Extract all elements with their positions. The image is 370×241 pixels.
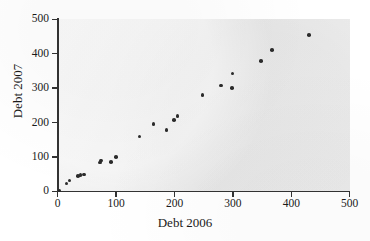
y-tick-mark (52, 122, 58, 123)
scatter-point (114, 155, 118, 159)
panel-texture (58, 19, 350, 191)
scatter-point (99, 159, 103, 163)
scatter-point (219, 84, 223, 88)
x-axis-line (57, 191, 350, 193)
scatter-point (172, 118, 176, 122)
y-tick-mark (52, 87, 58, 88)
scatter-point (270, 48, 274, 52)
x-axis-title: Debt 2006 (0, 216, 370, 230)
y-axis-title: Debt 2007 (11, 21, 25, 161)
scatter-point (176, 114, 180, 118)
scatter-point (82, 173, 86, 177)
y-tick-mark (52, 53, 58, 54)
x-tick-label: 200 (155, 198, 195, 210)
x-tick-label: 0 (38, 198, 78, 210)
scatter-point (109, 160, 113, 164)
x-tick-label: 100 (96, 198, 136, 210)
scatter-plot-figure: 0100200300400500 0100200300400500 Debt 2… (0, 0, 370, 241)
x-tick-label: 300 (213, 198, 253, 210)
plot-panel (58, 19, 350, 191)
y-axis-line (57, 18, 59, 192)
scatter-point (201, 93, 205, 97)
scatter-point (152, 122, 156, 126)
scatter-point (165, 128, 169, 132)
x-axis-title-text: Debt 2006 (158, 215, 213, 230)
y-tick-mark (52, 156, 58, 157)
y-tick-label: 0 (19, 185, 49, 197)
x-tick-label: 500 (330, 198, 370, 210)
scatter-point (307, 33, 311, 37)
x-tick-label: 400 (271, 198, 311, 210)
y-axis-title-text: Debt 2007 (10, 64, 25, 119)
scatter-point (230, 86, 234, 90)
scatter-point (259, 59, 263, 63)
y-tick-mark (52, 19, 58, 20)
scatter-point (231, 72, 235, 76)
